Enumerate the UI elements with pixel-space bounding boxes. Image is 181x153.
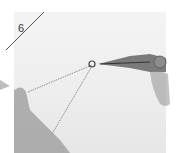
chain-strand-1	[28, 65, 92, 92]
hand-right	[150, 71, 170, 106]
illustration	[0, 0, 181, 153]
left-fragment	[0, 80, 10, 90]
hand-left	[14, 87, 70, 153]
step-number: 6	[18, 22, 24, 34]
chain-strand-2	[52, 66, 92, 134]
instruction-figure: 6	[0, 0, 181, 153]
corner-slash-line	[6, 12, 44, 50]
pliers-pivot	[154, 56, 166, 68]
